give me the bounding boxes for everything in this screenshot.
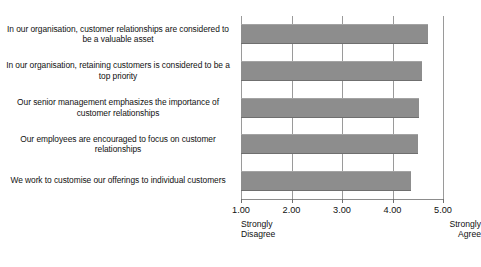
category-label: Our employees are encouraged to focus on… (2, 134, 234, 155)
horizontal-bar-chart: In our organisation, customer relationsh… (0, 0, 481, 267)
bar (241, 61, 422, 81)
category-label: Our senior management emphasizes the imp… (2, 97, 234, 118)
bar (241, 24, 428, 44)
x-tick-mark (393, 199, 394, 203)
scale-anchor-low-line2: Disagree (241, 229, 311, 239)
x-tick-label: 1.00 (221, 205, 261, 216)
scale-anchor-low-line1: Strongly (241, 219, 311, 229)
x-tick-mark (241, 199, 242, 203)
bar (241, 171, 411, 191)
scale-anchor-high-line1: Strongly (419, 219, 481, 229)
x-tick-label: 5.00 (423, 205, 463, 216)
x-tick-mark (443, 199, 444, 203)
x-tick-label: 3.00 (322, 205, 362, 216)
category-axis-labels: In our organisation, customer relationsh… (0, 16, 238, 199)
gridline (443, 16, 444, 199)
x-tick-mark (292, 199, 293, 203)
category-label: In our organisation, retaining customers… (2, 60, 234, 81)
x-tick-label: 2.00 (272, 205, 312, 216)
x-tick-label: 4.00 (373, 205, 413, 216)
scale-anchor-high-line2: Agree (419, 229, 481, 239)
bar (241, 98, 419, 118)
x-tick-mark (342, 199, 343, 203)
plot-area: 1.00 2.00 3.00 4.00 5.00 Strongly Disagr… (241, 16, 443, 199)
scale-anchor-high: Strongly Agree (419, 219, 481, 240)
category-label: In our organisation, customer relationsh… (2, 24, 234, 45)
bar (241, 134, 418, 154)
category-label: We work to customise our offerings to in… (2, 175, 234, 186)
scale-anchor-low: Strongly Disagree (241, 219, 311, 240)
